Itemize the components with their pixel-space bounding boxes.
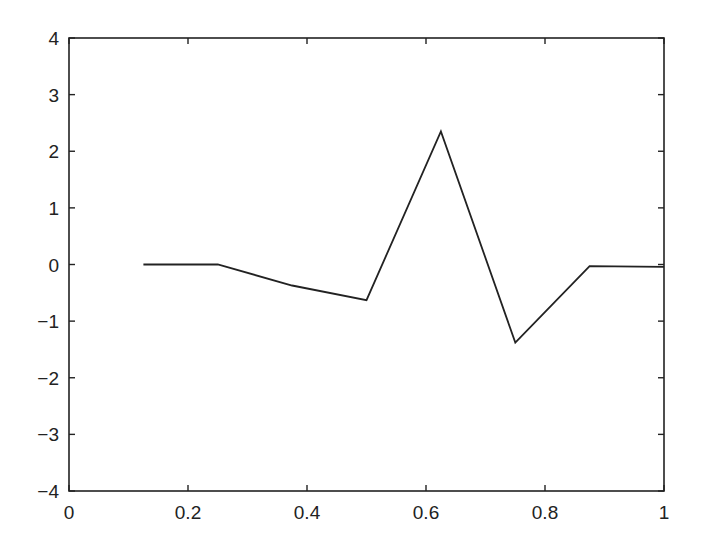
y-tick-label: 2 <box>48 141 59 162</box>
y-tick-label: −4 <box>37 481 59 502</box>
y-tick-label: −3 <box>37 424 59 445</box>
x-tick-label: 0.2 <box>175 502 201 523</box>
x-tick-label: 1 <box>659 502 670 523</box>
y-tick-label: 3 <box>48 85 59 106</box>
y-tick-label: 0 <box>48 255 59 276</box>
x-tick-label: 0.6 <box>413 502 439 523</box>
line-chart: −4−3−2−101234 00.20.40.60.81 <box>0 0 703 547</box>
y-tick-label: −1 <box>37 311 59 332</box>
y-tick-label: 4 <box>48 28 59 49</box>
y-tick-label: 1 <box>48 198 59 219</box>
x-tick-label: 0.8 <box>532 502 558 523</box>
x-tick-label: 0 <box>64 502 75 523</box>
x-tick-label: 0.4 <box>294 502 321 523</box>
y-tick-label: −2 <box>37 368 59 389</box>
